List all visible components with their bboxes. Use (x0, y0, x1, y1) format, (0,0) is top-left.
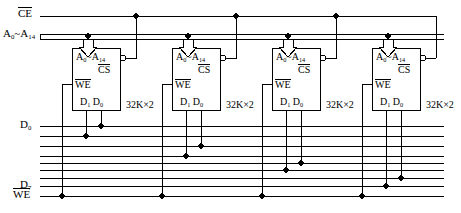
address-bus-label: A0~A14 (3, 27, 35, 39)
junction-ce-chip1 (133, 13, 139, 19)
junction-chip1-d0 (98, 123, 104, 129)
junction-ce-chip2 (233, 13, 239, 19)
chip-1-cs-bubble (120, 55, 125, 60)
junction-chip2-d1 (183, 153, 189, 159)
junction-we-chip1 (59, 193, 65, 199)
chip-2-capacity-label: 32K×2 (226, 99, 254, 110)
chip-3-cs-bubble (320, 55, 325, 60)
junction-addr-chip4 (385, 33, 391, 39)
chip-4-capacity-label: 32K×2 (426, 99, 454, 110)
junction-ce-chip3 (333, 13, 339, 19)
chip-2-we-label: WE (175, 79, 191, 91)
junction-chip3-d0 (298, 160, 304, 166)
junction-chip1-d1 (83, 133, 89, 139)
chip-2-cs-label: CS (198, 64, 210, 76)
ce-bus-label: CE (18, 7, 32, 20)
junction-we-chip2 (159, 193, 165, 199)
chip-4-we-label: WE (375, 79, 391, 91)
cs-stub-chip1 (124, 16, 136, 58)
chip-3-cs-label: CS (298, 64, 310, 76)
chip-4-address-label: A0~A14 (376, 51, 405, 62)
data-bus-d0-label: D0 (20, 118, 31, 130)
chip-1-data-pins-label: D1 D0 (80, 96, 103, 107)
chip-1-we-label: WE (75, 79, 91, 91)
junction-we-chip3 (259, 193, 265, 199)
chip-2-data-pins-label: D1 D0 (180, 96, 203, 107)
chip-2-cs-bubble (220, 55, 225, 60)
junction-chip3-d1 (283, 167, 289, 173)
junction-addr-chip1 (85, 33, 91, 39)
chip-4-cs-bubble (420, 55, 425, 60)
cs-stub-chip3 (324, 16, 336, 58)
we-branch-chip1 (62, 84, 72, 196)
junction-we-chip4 (359, 193, 365, 199)
chip-1-cs-label: CS (98, 64, 110, 76)
chip-3-address-label: A0~A14 (276, 51, 305, 62)
chip-4-cs-label: CS (398, 64, 410, 76)
chip-3-data-pins-label: D1 D0 (280, 96, 303, 107)
we-branch-chip2 (162, 84, 172, 196)
chip-1-capacity-label: 32K×2 (126, 99, 154, 110)
junction-addr-chip3 (285, 33, 291, 39)
we-branch-chip3 (262, 84, 272, 196)
chip-3-we-label: WE (275, 79, 291, 91)
we-branch-chip4 (362, 84, 372, 196)
junction-chip4-d0 (398, 175, 404, 181)
chip-3-capacity-label: 32K×2 (326, 99, 354, 110)
schematic-canvas: CE A0~A14 D0 D7 WE A0~A14 CS WE D1 D0 32… (0, 0, 461, 213)
junction-chip2-d0 (198, 143, 204, 149)
junction-addr-chip2 (185, 33, 191, 39)
cs-stub-chip2 (224, 16, 236, 58)
chip-4-data-pins-label: D1 D0 (380, 96, 403, 107)
chip-1-address-label: A0~A14 (76, 51, 105, 62)
chip-2-address-label: A0~A14 (176, 51, 205, 62)
junction-chip4-d1 (383, 183, 389, 189)
we-bus-label: WE (13, 188, 30, 201)
